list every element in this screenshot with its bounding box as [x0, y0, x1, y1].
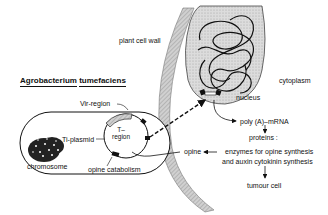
opine-label: opine [184, 148, 201, 155]
vir-region-label: Vir-region [80, 100, 110, 107]
nucleus-shape [185, 6, 265, 104]
tumour-cell-label: tumour cell [247, 182, 281, 189]
t-region-label-line2: region [112, 134, 130, 141]
opine-catabolism-label: opine catabolism [88, 166, 141, 173]
t-region-border-bottom [145, 136, 150, 140]
cell-wall-label: plant cell wall [119, 37, 161, 44]
ti-plasmid-label: Ti-plasmid [62, 136, 94, 143]
organism-title: Agrobacterium tumefaciens [20, 77, 126, 85]
enzymes-label-line1: enzymes for opine synthesis [225, 148, 313, 155]
organism-species: tumefaciens [79, 76, 126, 87]
enzymes-label-line2: and auxin cytokinin synthesis [222, 158, 313, 165]
cytoplasm-label: cytoplasm [279, 77, 311, 84]
proteins-label: proteins : [249, 134, 278, 141]
organism-genus: Agrobacterium [20, 76, 77, 87]
mrna-label: poly (A)–mRNA [240, 118, 289, 125]
diagram-canvas: Agrobacterium tumefaciens plant cell wal… [0, 0, 328, 215]
t-region-label: T– region [112, 127, 130, 140]
nucleus-label: nucleus [236, 94, 260, 101]
chromosome-label: chromosome [27, 163, 67, 170]
integrated-tdna-segment [205, 92, 216, 95]
